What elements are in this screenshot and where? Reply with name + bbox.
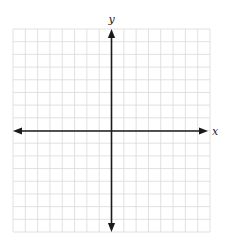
x-axis-left-arrow-icon xyxy=(13,127,22,134)
x-axis-right-arrow-icon xyxy=(199,127,208,134)
y-axis-bottom-arrow-icon xyxy=(108,223,115,232)
y-axis-label: y xyxy=(108,13,116,26)
y-axis-top-arrow-icon xyxy=(108,29,115,38)
coordinate-plane: x y xyxy=(0,0,232,246)
axes xyxy=(13,29,208,232)
x-axis-label: x xyxy=(212,125,219,138)
